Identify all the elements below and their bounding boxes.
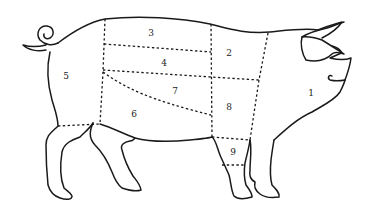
cut-line-shoulder [211,24,212,137]
cut-line-neck [250,33,268,140]
cut-line-rump [100,19,105,124]
region-label-1: 1 [308,88,314,98]
region-label-6: 6 [131,109,137,119]
pig-hind-leg-inner [90,123,141,191]
cut-line-hind-leg [58,124,100,126]
region-label-4: 4 [161,58,167,68]
pig-cuts-diagram: 1 2 3 4 5 6 7 8 9 [0,0,382,217]
pig-tail [23,26,58,51]
cut-line-4-7 [103,70,259,80]
pig-belly [100,124,212,141]
cut-line-7-6 [103,72,211,115]
pig-front-leg-right [250,140,279,197]
region-label-5: 5 [63,71,69,81]
pig-outline-drawing: 1 2 3 4 5 6 7 8 9 [0,0,382,217]
region-label-3: 3 [148,28,154,38]
region-label-8: 8 [226,102,232,112]
cut-line-front-leg-top [212,137,250,140]
pig-body-outline [58,17,318,43]
region-label-7: 7 [172,86,178,96]
cut-line-3-4 [104,44,211,52]
region-label-9: 9 [230,147,236,157]
pig-nostril [329,75,345,80]
region-label-2: 2 [226,48,232,58]
